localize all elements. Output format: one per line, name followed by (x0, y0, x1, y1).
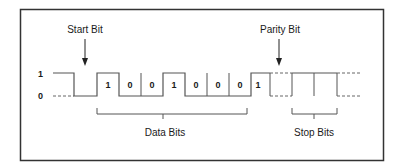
data-bits-bracket (97, 108, 247, 114)
level-high-label: 1 (38, 69, 43, 79)
data-bit-2: 0 (149, 80, 154, 90)
data-bit-4: 0 (193, 80, 198, 90)
parity-bit-label: Parity Bit (260, 24, 300, 35)
level-low-label: 0 (38, 91, 43, 101)
start-bit-label: Start Bit (67, 24, 103, 35)
stop-bits-bracket (292, 108, 337, 114)
start-bit-arrow-icon (82, 58, 88, 66)
uart-frame-diagram: 1 0 1 0 0 1 0 0 0 1 Start Bit (0, 0, 403, 165)
data-bit-6: 0 (237, 80, 242, 90)
data-bit-1: 0 (127, 80, 132, 90)
data-bit-7: 1 (255, 80, 260, 90)
data-bits-label: Data Bits (145, 127, 186, 138)
data-bit-0: 1 (105, 80, 110, 90)
stop-bits-label: Stop Bits (294, 127, 334, 138)
parity-bit-arrow-icon (276, 58, 282, 66)
data-bit-5: 0 (215, 80, 220, 90)
data-bit-3: 1 (171, 80, 176, 90)
